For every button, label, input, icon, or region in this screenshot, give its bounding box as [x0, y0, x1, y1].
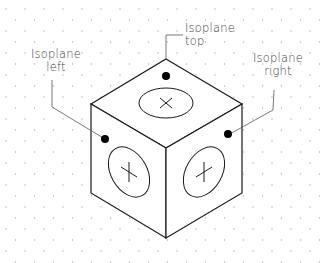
label-isoplane-top: Isoplane top	[185, 22, 235, 48]
label-left-line2: left	[28, 61, 84, 74]
cube	[91, 59, 242, 238]
diagram-canvas	[0, 0, 325, 263]
label-top-line2: top	[185, 35, 235, 48]
label-right-line2: right	[248, 65, 308, 78]
leader-line-top	[166, 35, 183, 59]
marker-dot-left	[101, 135, 109, 143]
label-isoplane-left: Isoplane left	[28, 48, 84, 74]
marker-dot-right	[224, 130, 232, 138]
label-isoplane-right: Isoplane right	[248, 52, 308, 78]
marker-dot-top	[162, 72, 170, 80]
